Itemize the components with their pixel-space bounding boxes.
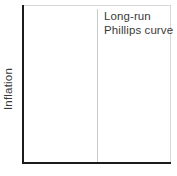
long-run-phillips-curve-line bbox=[97, 9, 98, 162]
x-axis-line bbox=[22, 162, 171, 164]
curve-annotation: Long-run Phillips curve bbox=[104, 9, 173, 37]
y-axis-line bbox=[22, 5, 24, 164]
y-axis-label: Inflation bbox=[0, 57, 16, 121]
long-run-phillips-curve-figure: Inflation Long-run Phillips curve bbox=[0, 0, 177, 176]
curve-annotation-line-2: Phillips curve bbox=[104, 23, 173, 37]
plot-frame-top-border bbox=[22, 5, 171, 6]
curve-annotation-line-1: Long-run bbox=[104, 9, 173, 23]
